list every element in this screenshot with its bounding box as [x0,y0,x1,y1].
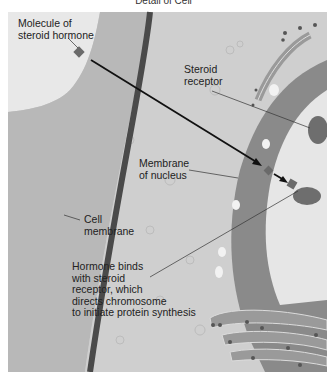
bound-steroid-receptor [293,187,321,205]
label-molecule: Molecule of steroid hormone [18,18,94,41]
label-steroid-receptor: Steroid receptor [184,64,223,87]
label-nuclear-membrane: Membrane of nucleus [139,158,189,181]
label-cell-membrane: Cell membrane [84,214,134,237]
cell-illustration [0,0,327,384]
label-hormone-binding: Hormone binds with steroid receptor, whi… [72,261,196,319]
